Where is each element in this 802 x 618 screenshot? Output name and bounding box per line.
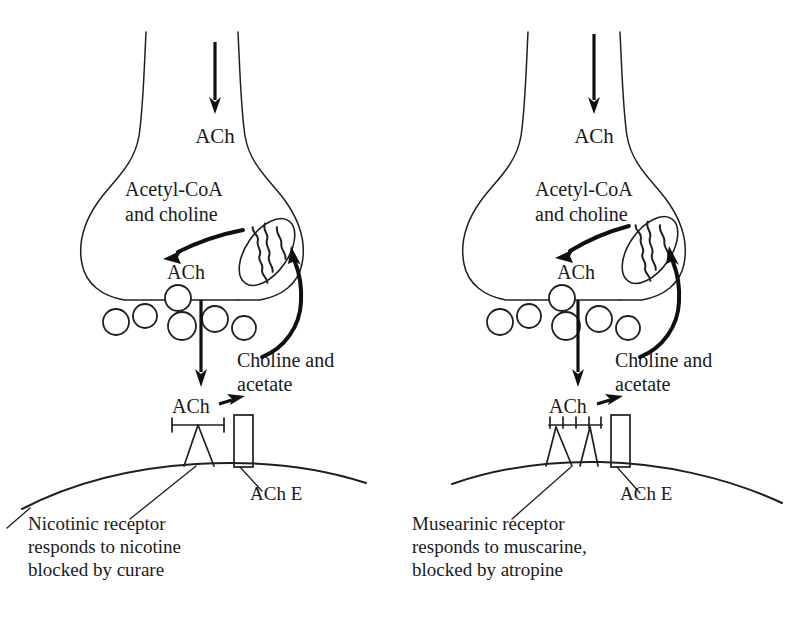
caption-line3: blocked by curare [28, 559, 164, 580]
acetylcholinesterase-box [234, 415, 253, 467]
label-ache: ACh E [620, 483, 672, 504]
leader-receptor [130, 466, 196, 519]
label-breakdown-line1: Choline and [615, 349, 712, 371]
synaptic-vesicles [103, 285, 256, 340]
synaptic-vesicles [487, 285, 640, 340]
caption-line2: responds to muscarine, [412, 536, 587, 557]
panel-right: ACh Acetyl-CoA and choline ACh [412, 32, 782, 580]
label-ache: ACh E [250, 483, 302, 504]
muscarinic-receptor [546, 417, 602, 466]
synthesis-arrow [163, 230, 243, 264]
label-ach-cleft: ACh [549, 395, 587, 417]
label-ach-cleft: ACh [172, 395, 210, 417]
label-precursor-line2: and choline [535, 203, 628, 225]
postsynaptic-membrane [452, 462, 782, 503]
label-ach-synthesized: ACh [557, 261, 595, 283]
ach-to-enzyme-arrow [597, 394, 623, 405]
synthesis-arrow [555, 226, 629, 263]
ach-incoming-arrow [209, 42, 221, 114]
acetylcholinesterase-box [611, 415, 630, 467]
synapse-diagram: ACh Acetyl-CoA and choline ACh [0, 0, 802, 618]
caption-line2: responds to nicotine [28, 536, 181, 557]
panel-left: ACh Acetyl-CoA and choline ACh [7, 32, 366, 580]
label-precursor-line2: and choline [125, 203, 218, 225]
label-breakdown-line1: Choline and [237, 349, 334, 371]
ach-to-enzyme-arrow [219, 394, 245, 405]
caption-line1: Nicotinic receptor [28, 513, 166, 534]
label-breakdown-line2: acetate [615, 373, 671, 395]
ach-incoming-arrow [588, 34, 600, 114]
caption-line3: blocked by atropine [412, 559, 563, 580]
label-breakdown-line2: acetate [237, 373, 293, 395]
diagram-canvas: ACh Acetyl-CoA and choline ACh [0, 0, 802, 618]
caption-line1: Musearinic receptor [412, 513, 565, 534]
leader-receptor [512, 467, 571, 519]
label-precursor-line1: Acetyl-CoA [535, 178, 633, 201]
label-ach-incoming: ACh [195, 124, 235, 148]
label-ach-synthesized: ACh [167, 261, 205, 283]
ach-release-arrow [572, 300, 584, 387]
label-precursor-line1: Acetyl-CoA [125, 178, 223, 201]
nicotinic-receptor [172, 418, 224, 466]
label-ach-incoming: ACh [574, 124, 614, 148]
postsynaptic-membrane [22, 463, 366, 509]
leader-membrane [7, 508, 30, 528]
